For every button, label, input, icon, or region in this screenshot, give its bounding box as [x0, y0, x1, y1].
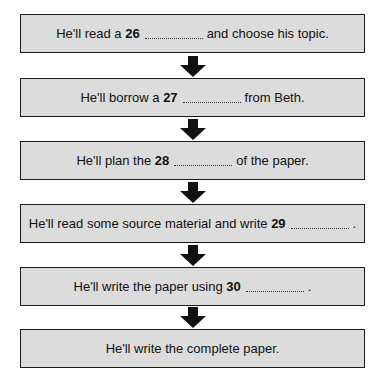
step-text-after: and choose his topic.: [207, 26, 329, 41]
step-text: He'll write the complete paper.: [106, 341, 280, 356]
answer-blank: [174, 155, 232, 166]
step-text-after: from Beth.: [245, 90, 305, 105]
down-arrow-icon: [177, 180, 209, 204]
step-box-4: He'll read some source material and writ…: [20, 204, 365, 243]
step-text-before: He'll plan the: [76, 153, 154, 168]
question-number: 27: [163, 90, 177, 105]
question-number: 26: [125, 26, 139, 41]
answer-blank: [291, 218, 349, 229]
answer-blank: [183, 92, 241, 103]
step-text-before: He'll borrow a: [80, 90, 163, 105]
step-box-6: He'll write the complete paper.: [20, 329, 365, 368]
question-number: 30: [226, 279, 240, 294]
step-text-before: He'll write the paper using: [74, 279, 227, 294]
step-box-3: He'll plan the 28 of the paper.: [20, 141, 365, 180]
down-arrow-icon: [177, 243, 209, 267]
step-box-5: He'll write the paper using 30 .: [20, 267, 365, 306]
step-box-2: He'll borrow a 27 from Beth.: [20, 78, 365, 117]
step-text-before: He'll read some source material and writ…: [29, 216, 271, 231]
step-text-before: He'll read a: [56, 26, 125, 41]
step-text-after: .: [308, 279, 312, 294]
down-arrow-icon: [177, 54, 209, 78]
down-arrow-icon: [177, 305, 209, 329]
down-arrow-icon: [177, 117, 209, 141]
question-number: 29: [271, 216, 285, 231]
answer-blank: [145, 28, 203, 39]
step-box-1: He'll read a 26 and choose his topic.: [20, 14, 365, 53]
step-text-after: .: [353, 216, 357, 231]
question-number: 28: [155, 153, 169, 168]
step-text-after: of the paper.: [236, 153, 308, 168]
answer-blank: [246, 281, 304, 292]
